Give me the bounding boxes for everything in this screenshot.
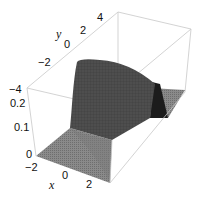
y-tick: 2 [80,24,86,36]
x-tick: −2 [25,161,38,173]
y-tick: −2 [38,56,51,68]
ridge-surface [70,59,155,140]
z-tick: 0.2 [10,97,25,109]
x-axis-label: x [48,178,55,192]
y-tick: 0 [64,38,70,50]
x-tick: 2 [86,178,92,190]
x-tick: 0 [62,169,68,181]
y-tick: 4 [97,11,103,23]
z-tick: 0 [26,148,32,160]
z-tick: 0.1 [14,121,29,133]
y-tick: −4 [9,83,22,95]
y-axis-label: y [55,27,62,41]
surface-plot: −4 −2 0 2 4 y 0.2 0.1 0 −2 0 2 x [0,0,200,200]
